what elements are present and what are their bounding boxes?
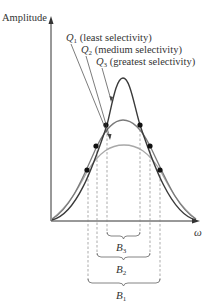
curve-q3 — [52, 78, 196, 220]
y-axis-label: Amplitude — [2, 12, 47, 23]
half-power-points — [84, 122, 162, 172]
label-b3: B3 — [116, 241, 127, 255]
x-axis-label: ω — [194, 226, 202, 238]
brace-b1 — [88, 279, 160, 286]
bandwidth-braces — [88, 232, 160, 286]
selectivity-diagram: Amplitude ω Q1 (least selectivity) Q2 (m… — [0, 0, 211, 306]
label-b2: B2 — [116, 263, 127, 277]
brace-b3 — [107, 232, 140, 239]
label-q3: Q3 (greatest selectivity) — [96, 56, 196, 69]
y-axis-arrow-icon — [49, 16, 54, 24]
curve-q1 — [52, 145, 196, 219]
label-b1: B1 — [116, 289, 127, 303]
